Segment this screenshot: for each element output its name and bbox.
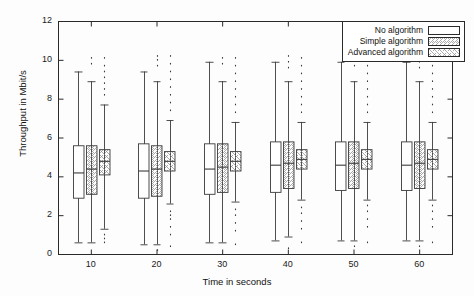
x-tick-label: 50 (339, 259, 369, 269)
y-tick-label: 12 (30, 15, 52, 25)
x-tick-label: 20 (142, 259, 172, 269)
y-tick-label: 4 (30, 170, 52, 180)
y-tick-label: 0 (30, 248, 52, 258)
y-tick-label: 8 (30, 93, 52, 103)
legend-item-label: No algorithm (375, 25, 423, 36)
legend-swatch-advanced-algorithm (428, 48, 460, 57)
y-tick-label: 10 (30, 54, 52, 64)
x-tick-label: 60 (404, 259, 434, 269)
x-tick-label: 10 (76, 259, 106, 269)
y-tick-label: 2 (30, 209, 52, 219)
legend-swatch-no-algorithm (428, 26, 460, 35)
boxplot-figure: Throughput in Mbit/s Time in seconds 024… (0, 0, 474, 296)
legend-item-label: Simple algorithm (360, 36, 423, 47)
chart-legend: No algorithm Simple algorithm Advanced a… (342, 21, 465, 62)
legend-swatch-simple-algorithm (428, 37, 460, 46)
legend-item: No algorithm (348, 25, 460, 36)
x-tick-label: 30 (207, 259, 237, 269)
x-tick-label: 40 (273, 259, 303, 269)
legend-item: Advanced algorithm (348, 47, 460, 58)
y-axis-label: Throughput in Mbit/s (17, 54, 28, 174)
y-tick-label: 6 (30, 132, 52, 142)
legend-item: Simple algorithm (348, 36, 460, 47)
x-axis-label: Time in seconds (0, 276, 474, 287)
legend-item-label: Advanced algorithm (348, 47, 423, 58)
